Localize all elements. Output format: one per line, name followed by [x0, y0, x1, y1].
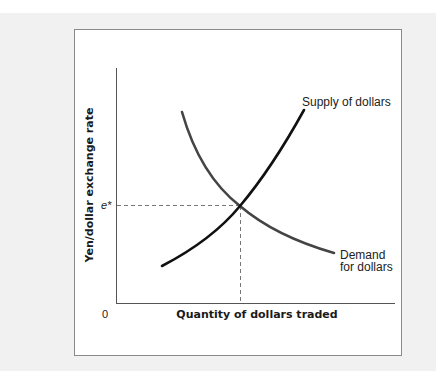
supply-curve [162, 110, 304, 266]
origin-label: 0 [102, 308, 108, 320]
supply-demand-chart: Supply of dollars Demand for dollars e* … [0, 0, 436, 381]
equilibrium-rate-label: e* [101, 199, 112, 211]
supply-label: Supply of dollars [302, 95, 391, 109]
x-axis-label: Quantity of dollars traded [176, 308, 337, 321]
y-axis-label: Yen/dollar exchange rate [83, 108, 96, 264]
demand-label-line2: for dollars [340, 260, 393, 274]
